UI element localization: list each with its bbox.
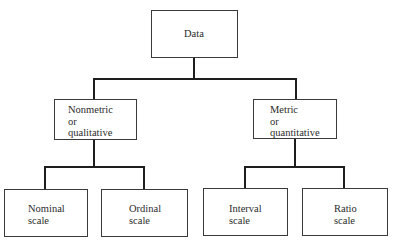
node-nominal-label: Nominal scale (28, 203, 65, 226)
node-metric-label: Metric or quantitative (270, 104, 320, 139)
connector-root-stem (193, 58, 195, 80)
connector-ratio-drop (343, 166, 345, 189)
node-data-label: Data (184, 28, 204, 40)
connector-left-drop (93, 78, 95, 100)
connector-nonmetric-horizontal (44, 166, 145, 168)
node-interval-label: Interval scale (229, 203, 262, 226)
connector-nonmetric-stem (93, 140, 95, 168)
node-nonmetric-label: Nonmetric or qualitative (68, 104, 113, 139)
connector-interval-drop (244, 166, 246, 189)
connector-root-horizontal (93, 78, 297, 80)
connector-nominal-drop (44, 166, 46, 189)
connector-ordinal-drop (143, 166, 145, 189)
connector-right-drop (295, 78, 297, 100)
connector-metric-horizontal (244, 166, 345, 168)
node-ordinal-label: Ordinal scale (129, 203, 161, 226)
connector-metric-stem (294, 139, 296, 167)
node-ratio-label: Ratio scale (334, 203, 357, 226)
